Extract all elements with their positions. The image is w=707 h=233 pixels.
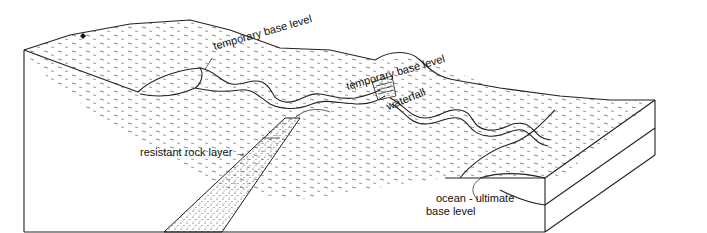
label-ocean-ultimate: ocean - ultimate [436,192,514,204]
base-level-block-diagram: temporary base level temporary base leve… [0,0,707,233]
diagram-drawing [0,0,707,233]
label-base-level: base level [426,205,476,217]
land-surface [24,20,655,200]
label-resistant-rock-layer: resistant rock layer → [140,146,246,158]
